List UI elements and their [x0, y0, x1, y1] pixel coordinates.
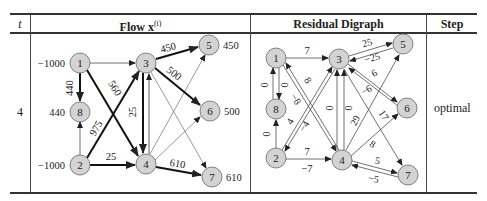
supply-node-2: −1000: [38, 160, 65, 171]
flow-graph: 440 560 975 25 25 450 500 610 1 2 3 4 5 …: [38, 35, 242, 187]
res-label-3-6: 6: [369, 67, 379, 79]
svg-text:1: 1: [273, 52, 279, 64]
res-label-4-3-b: 0: [343, 106, 354, 111]
res-label-7-4: −5: [367, 172, 379, 185]
res-node-2: 2: [266, 148, 286, 168]
flow-node-8: 8: [70, 102, 90, 122]
residual-nodes: 1 2 3 4 5 6 7 8: [266, 34, 418, 185]
flow-arc-label-1-4: 560: [106, 79, 124, 98]
svg-text:8: 8: [77, 106, 83, 118]
svg-text:2: 2: [77, 159, 83, 171]
res-label-2-4: 7: [304, 146, 309, 157]
svg-text:5: 5: [206, 39, 212, 51]
flow-node-7: 7: [202, 167, 222, 187]
flow-node-2: 2: [70, 155, 90, 175]
svg-text:4: 4: [339, 154, 345, 166]
flow-node-6: 6: [200, 101, 220, 121]
svg-text:1: 1: [77, 57, 83, 69]
svg-text:5: 5: [400, 38, 406, 50]
svg-text:3: 3: [143, 57, 149, 69]
res-label-2-3: 4: [284, 116, 296, 126]
svg-text:6: 6: [207, 105, 213, 117]
svg-text:4: 4: [143, 158, 149, 170]
res-label-6-3: −6: [359, 83, 374, 98]
flow-arc-label-3-6: 500: [165, 64, 184, 82]
svg-text:7: 7: [405, 169, 411, 181]
res-label-1-4: 8: [302, 75, 314, 85]
svg-text:8: 8: [273, 103, 279, 115]
demand-node-7: 610: [226, 172, 242, 183]
res-node-8: 8: [266, 99, 286, 119]
res-label-3-7: 17: [377, 108, 392, 122]
res-node-6: 6: [397, 98, 417, 118]
svg-text:7: 7: [209, 171, 215, 183]
res-label-1-8: 0: [279, 83, 290, 88]
flow-arc-label-3-4: 25: [127, 107, 138, 118]
res-label-4-7: 5: [374, 155, 381, 167]
res-label-5-3: −25: [363, 50, 381, 65]
flow-arc-label-2-4: 25: [106, 151, 117, 162]
res-label-8-1: 0: [259, 83, 270, 88]
res-label-4-2: −7: [301, 163, 312, 174]
res-label-3-2: −4: [297, 119, 312, 134]
flow-arc-label-2-3: 975: [87, 119, 104, 138]
res-node-1: 1: [266, 48, 286, 68]
demand-node-6: 500: [224, 106, 240, 117]
flow-node-4: 4: [136, 154, 156, 174]
supply-node-1: −1000: [38, 58, 65, 69]
flow-node-3: 3: [136, 53, 156, 73]
res-node-5: 5: [393, 34, 413, 54]
svg-text:3: 3: [336, 53, 342, 65]
flow-node-1: 1: [70, 53, 90, 73]
graphs: 440 560 975 25 25 450 500 610 1 2 3 4 5 …: [0, 0, 487, 201]
res-label-4-3-a: 0: [324, 106, 335, 111]
demand-node-8: 440: [49, 107, 65, 118]
res-label-1-3: 7: [304, 45, 309, 56]
res-node-7: 7: [398, 165, 418, 185]
flow-node-5: 5: [199, 35, 219, 55]
flow-arc-label-4-7: 610: [169, 157, 186, 171]
svg-text:6: 6: [404, 102, 410, 114]
res-node-4: 4: [332, 150, 352, 170]
demand-node-5: 450: [223, 40, 239, 51]
res-label-2-8: 0: [261, 132, 272, 137]
res-label-3-5: 25: [361, 36, 374, 49]
flow-arc-label-1-8: 440: [64, 80, 75, 96]
svg-text:2: 2: [273, 152, 279, 164]
res-node-3: 3: [329, 49, 349, 69]
